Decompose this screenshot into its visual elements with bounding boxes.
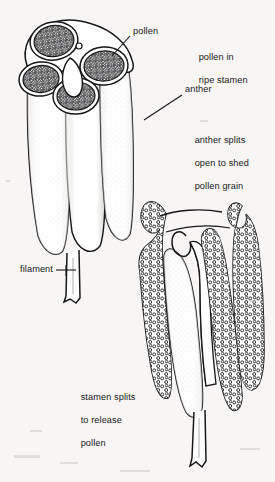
leader-line-anther xyxy=(144,95,182,120)
label-anther-splits: anther splits open to shed pollen grain xyxy=(184,124,249,204)
upper-filament xyxy=(64,250,80,303)
label-line-1: stamen splits xyxy=(81,392,136,402)
split-top-arc xyxy=(160,210,222,216)
label-line-1: pollen in xyxy=(199,52,234,62)
label-filament: filament xyxy=(20,264,53,275)
label-anther: anther xyxy=(185,84,212,95)
label-line-2: to release xyxy=(81,415,122,425)
lower-stamen-group xyxy=(139,202,264,467)
upper-stamen-group xyxy=(17,18,133,303)
label-line-3: pollen xyxy=(81,438,106,448)
anther-pore xyxy=(76,43,82,49)
label-line-2: open to shed xyxy=(195,158,249,168)
label-pollen: pollen xyxy=(133,26,158,37)
lower-filament xyxy=(190,410,206,467)
label-stamen-splits: stamen splits to release pollen xyxy=(70,381,136,461)
label-line-3: pollen grain xyxy=(195,181,244,191)
split-top-arc-inner xyxy=(166,226,230,232)
label-line-1: anther splits xyxy=(195,135,246,145)
diagram-page: pollen pollen in ripe stamen anther anth… xyxy=(0,0,275,482)
